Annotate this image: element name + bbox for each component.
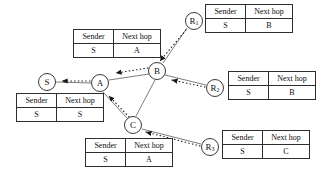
table-header-row: Sender Next hop xyxy=(229,72,316,86)
cell-next-hop: C xyxy=(263,145,310,159)
link-b-c xyxy=(136,80,155,116)
table-header-row: Sender Next hop xyxy=(223,131,310,145)
table-row: S B xyxy=(229,86,316,100)
link-a-b xyxy=(109,74,149,80)
advert-b-to-a xyxy=(116,68,148,73)
header-next-hop: Next hop xyxy=(126,139,173,153)
cell-sender: S xyxy=(229,86,269,100)
header-sender: Sender xyxy=(223,131,263,145)
cell-next-hop: S xyxy=(57,108,104,122)
table-row: S A xyxy=(74,44,161,58)
table-header-row: Sender Next hop xyxy=(206,5,293,19)
header-next-hop: Next hop xyxy=(263,131,310,145)
node-r3-subscript: 3 xyxy=(212,146,215,152)
table-row: S B xyxy=(206,19,293,33)
node-b-label: B xyxy=(154,66,160,75)
link-r2-b xyxy=(165,75,206,85)
header-sender: Sender xyxy=(229,72,269,86)
node-a[interactable]: A xyxy=(91,74,109,92)
cell-sender: S xyxy=(86,153,126,167)
node-s[interactable]: S xyxy=(38,73,56,91)
table-row: S A xyxy=(86,153,173,167)
node-r1-subscript: 1 xyxy=(196,20,199,26)
node-r1[interactable]: R1 xyxy=(185,12,203,30)
routing-table-r1: Sender Next hop S B xyxy=(205,4,293,33)
header-next-hop: Next hop xyxy=(114,30,161,44)
cell-next-hop: B xyxy=(246,19,293,33)
header-next-hop: Next hop xyxy=(246,5,293,19)
routing-table-r3: Sender Next hop S C xyxy=(222,130,310,159)
header-sender: Sender xyxy=(74,30,114,44)
node-s-label: S xyxy=(44,77,49,86)
header-next-hop: Next hop xyxy=(57,94,104,108)
cell-sender: S xyxy=(206,19,246,33)
routing-table-r2: Sender Next hop S B xyxy=(228,71,316,100)
cell-sender: S xyxy=(74,44,114,58)
routing-table-a: Sender Next hop S A xyxy=(73,29,161,58)
node-r2[interactable]: R2 xyxy=(206,79,224,97)
network-diagram: S A B C R1 R2 R3 Sender Next hop S B Sen… xyxy=(0,0,326,181)
table-header-row: Sender Next hop xyxy=(17,94,104,108)
node-c[interactable]: C xyxy=(124,116,142,134)
link-s-a xyxy=(56,82,91,83)
header-sender: Sender xyxy=(86,139,126,153)
cell-sender: S xyxy=(17,108,57,122)
cell-next-hop: B xyxy=(269,86,316,100)
node-r3[interactable]: R3 xyxy=(201,138,219,156)
node-a-label: A xyxy=(97,78,104,87)
routing-table-s: Sender Next hop S S xyxy=(16,93,104,122)
cell-next-hop: A xyxy=(114,44,161,58)
table-header-row: Sender Next hop xyxy=(86,139,173,153)
table-row: S C xyxy=(223,145,310,159)
cell-next-hop: A xyxy=(126,153,173,167)
table-row: S S xyxy=(17,108,104,122)
node-c-label: C xyxy=(130,120,136,129)
table-header-row: Sender Next hop xyxy=(74,30,161,44)
header-sender: Sender xyxy=(206,5,246,19)
header-sender: Sender xyxy=(17,94,57,108)
link-a-c xyxy=(103,92,127,118)
header-next-hop: Next hop xyxy=(269,72,316,86)
node-r2-subscript: 2 xyxy=(217,87,220,93)
node-b[interactable]: B xyxy=(148,62,166,80)
advert-c-to-a xyxy=(109,96,129,117)
cell-sender: S xyxy=(223,145,263,159)
routing-table-c: Sender Next hop S A xyxy=(85,138,173,167)
